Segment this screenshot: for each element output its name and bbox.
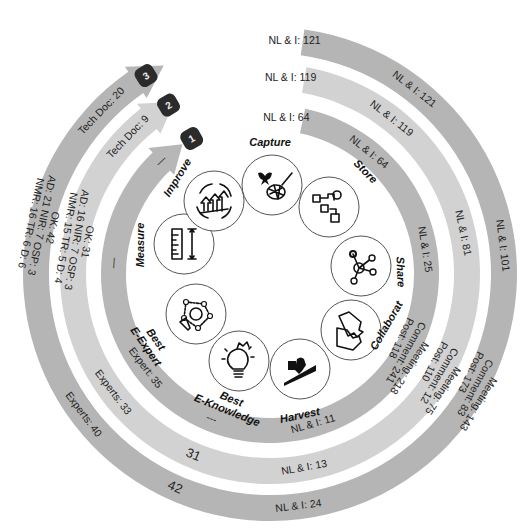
stage-circle [166,284,226,344]
stage-node-share: Share [331,236,408,296]
stage-label: Measure [134,223,146,268]
stage-circle [321,300,381,360]
stage-label: Capture [249,136,291,148]
rings-layer [23,29,517,521]
ring-3-label: NL & I: 121 [268,34,320,46]
step-badge-1: 1 [178,125,205,152]
stage-node-capture: Capture [242,136,302,215]
ring-2-label: NL & I: 119 [265,71,317,83]
ring-band-3 [23,29,517,521]
stage-label: Share [395,256,408,287]
stage-circle [299,177,359,237]
knowledge-cycle-diagram: NL & I: 121NL & I: 121NL & I: 101Post: 1… [0,0,529,530]
stage-circle [209,331,269,391]
ring-1-label: — [106,257,119,269]
stage-circle [184,171,244,231]
ring-1-label: NL & I: 64 [263,111,309,123]
stage-node-store: Store [299,157,380,237]
